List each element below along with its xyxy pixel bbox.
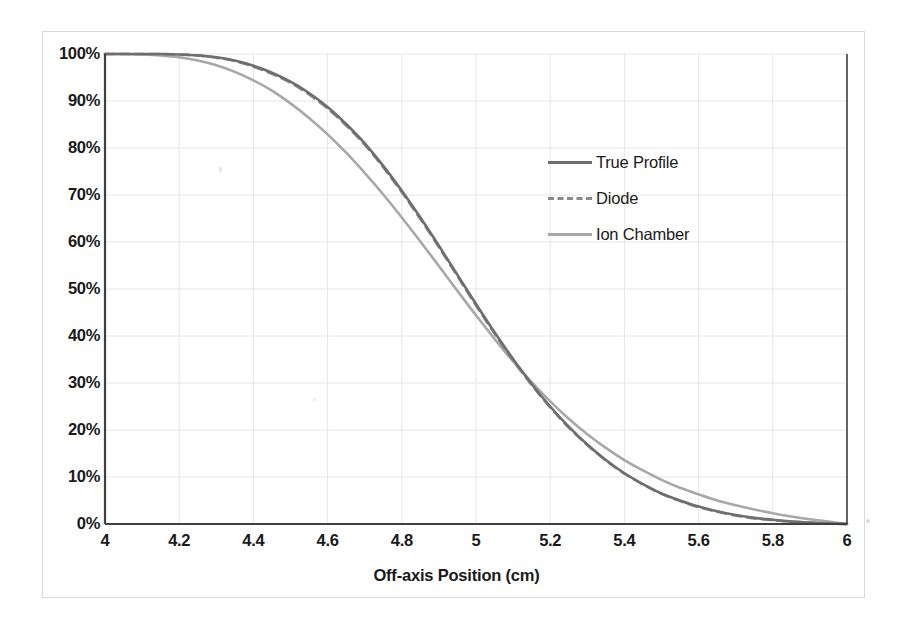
x-tick-label: 5.2 bbox=[539, 531, 561, 550]
legend-item-ion-chamber[interactable]: Ion Chamber bbox=[548, 224, 738, 244]
y-tick-label: 60% bbox=[68, 232, 100, 251]
gridlines bbox=[105, 54, 847, 524]
x-tick-label: 4.8 bbox=[391, 531, 413, 550]
x-tick-label: 5.8 bbox=[762, 531, 784, 550]
y-tick-label: 30% bbox=[68, 373, 100, 392]
legend-line-swatch-icon bbox=[548, 228, 592, 240]
y-tick-label: 80% bbox=[68, 138, 100, 157]
y-tick-label: 40% bbox=[68, 326, 100, 345]
legend-line-swatch-icon bbox=[548, 192, 592, 204]
x-tick-label: 5.6 bbox=[688, 531, 710, 550]
x-tick-label: 5 bbox=[472, 531, 481, 550]
legend-item-label: Ion Chamber bbox=[596, 225, 689, 244]
legend-item-diode[interactable]: Diode bbox=[548, 188, 738, 208]
legend-line-swatch-icon bbox=[548, 156, 592, 168]
x-tick-label: 6 bbox=[843, 531, 852, 550]
scan-speck bbox=[313, 398, 316, 401]
x-tick-label: 4.6 bbox=[317, 531, 339, 550]
x-tick-label: 5.4 bbox=[613, 531, 635, 550]
x-tick-label: 4.4 bbox=[242, 531, 264, 550]
legend-item-true-profile[interactable]: True Profile bbox=[548, 152, 738, 172]
x-tick-label: 4 bbox=[101, 531, 110, 550]
scan-speck bbox=[866, 519, 870, 523]
legend-item-label: Diode bbox=[596, 189, 638, 208]
y-tick-label: 50% bbox=[68, 279, 100, 298]
chart-legend: True ProfileDiodeIon Chamber bbox=[548, 152, 738, 244]
y-tick-label: 70% bbox=[68, 185, 100, 204]
y-tick-label: 10% bbox=[68, 467, 100, 486]
x-axis-tick-labels: 44.24.44.64.855.25.45.65.86 bbox=[0, 531, 913, 557]
chart-figure: 0%10%20%30%40%50%60%70%80%90%100% 44.24.… bbox=[0, 0, 913, 623]
x-tick-label: 4.2 bbox=[168, 531, 190, 550]
scan-speck bbox=[219, 167, 222, 173]
x-axis-title: Off-axis Position (cm) bbox=[0, 566, 913, 585]
legend-item-label: True Profile bbox=[596, 153, 678, 172]
y-tick-label: 100% bbox=[59, 44, 100, 63]
chart-plot-svg bbox=[0, 0, 913, 623]
y-tick-label: 20% bbox=[68, 420, 100, 439]
y-tick-label: 90% bbox=[68, 91, 100, 110]
